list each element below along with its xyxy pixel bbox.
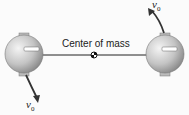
left-sphere: [5, 33, 43, 76]
velocity-label-left: v0: [26, 98, 34, 113]
right-sphere: [146, 33, 184, 76]
center-of-mass-marker: [91, 52, 97, 58]
center-of-mass-label: Center of mass: [62, 38, 130, 49]
velocity-label-right: v0: [152, 0, 160, 13]
